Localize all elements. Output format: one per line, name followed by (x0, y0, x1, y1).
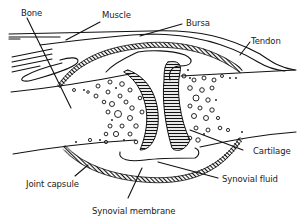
label-muscle: Muscle (102, 11, 131, 20)
label-synovial-fluid: Synovial fluid (222, 175, 278, 184)
spongy-bone-dots-left (75, 87, 125, 143)
label-joint-capsule: Joint capsule (26, 180, 79, 189)
spongy-bone-right (182, 74, 230, 142)
label-cartilage: Cartilage (253, 147, 291, 156)
label-bursa: Bursa (186, 19, 210, 28)
label-tendon: Tendon (251, 37, 281, 46)
synovial-joint-diagram: Bone Muscle Bursa Tendon Cartilage Synov… (0, 0, 303, 221)
joint-capsule-leader-line (75, 165, 88, 176)
label-bone: Bone (21, 9, 42, 18)
label-synovial-membrane: Synovial membrane (92, 207, 175, 216)
synovial-membrane-leader-line (128, 168, 142, 198)
muscle-leader-line (66, 22, 100, 40)
